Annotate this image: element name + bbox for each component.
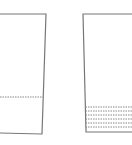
vessel-outline: [83, 14, 132, 132]
right-vessel: [83, 14, 132, 132]
left-vessel: [0, 14, 46, 134]
diagram-canvas: [0, 0, 132, 145]
vessel-outline: [0, 14, 46, 134]
